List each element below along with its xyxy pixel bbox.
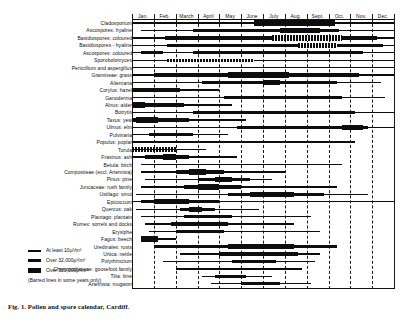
pollen-spore-calendar-figure: Jan.Feb.MarchAprilMayJuneJulyAug.Sept.Oc… [0,0,405,323]
legend-swatch-level3-icon [28,268,41,273]
legend-label-level2: Over 32,000µ³/m³ [46,256,85,265]
legend-item-level1: At least 10µ³/m³ [28,246,132,255]
bar-segment-level2 [149,133,193,136]
legend-note: (Barred lines in some years only) [28,276,132,285]
bar-segment-level2 [224,96,342,99]
legend-item-level2: Over 32,000µ³/m³ [28,256,132,265]
legend: At least 10µ³/m³ Over 32,000µ³/m³ Over 3… [28,246,132,285]
legend-swatch-level1-icon [28,250,41,252]
legend-label-level3: Over 320,000µ³/m³ [46,266,88,275]
legend-item-level3: Over 320,000µ³/m³ [28,266,132,275]
bar-segment-level1 [141,164,342,165]
legend-swatch-level2-icon [28,259,41,262]
bar-segment-level2 [171,222,228,225]
bar-segment-level2 [132,88,180,91]
bar-segment-level2 [184,215,232,218]
bar-segment-level2 [193,51,363,54]
bar-segment-level2 [167,44,383,47]
bar-segment-level1 [176,268,303,269]
bar-segment-level2 [215,275,246,278]
bar-segment-level2 [141,51,163,54]
bar-segment-level2 [232,260,276,263]
bar-segment-level2 [193,111,355,114]
legend-label-level1: At least 10µ³/m³ [46,246,81,255]
bar-segment-level2-barred [167,59,254,62]
figure-caption: Fig. 1. Pollen and spore calendar, Cardi… [8,303,130,310]
bar-segment-level2 [165,36,377,39]
plot-bottom-rule [132,288,394,289]
bar-segment-level1 [132,149,206,150]
bar-segment-level1 [132,67,394,68]
bar-segment-level1 [132,141,355,142]
bar-segment-level2 [219,252,298,255]
bar-segment-level2 [241,282,280,285]
bar-segment-level2 [176,230,224,233]
